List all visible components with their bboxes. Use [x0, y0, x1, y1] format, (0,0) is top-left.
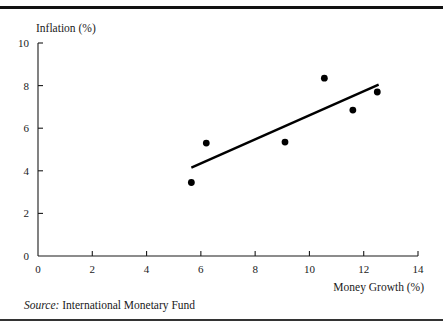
data-point [203, 140, 210, 147]
x-tick-label: 4 [144, 263, 150, 275]
y-tick-label: 4 [24, 165, 30, 177]
x-axis-title: Money Growth (%) [0, 281, 424, 293]
x-tick-label: 2 [90, 263, 96, 275]
x-tick-label: 8 [252, 263, 258, 275]
data-point [282, 139, 289, 146]
figure-container: Inflation (%) 024681002468101214 Money G… [0, 0, 443, 331]
y-tick-label: 2 [24, 207, 30, 219]
y-tick-label: 8 [24, 80, 30, 92]
x-tick-label: 6 [198, 263, 204, 275]
x-tick-label: 0 [35, 263, 41, 275]
x-tick-label: 12 [358, 263, 369, 275]
y-tick-label: 10 [18, 37, 30, 49]
source-value: International Monetary Fund [62, 299, 195, 311]
data-point [374, 89, 381, 96]
y-tick-label: 0 [24, 250, 30, 262]
data-point [349, 107, 356, 114]
data-point [321, 75, 328, 82]
source-label: Source: [24, 299, 59, 311]
x-tick-label: 10 [304, 263, 316, 275]
source-note: Source: International Monetary Fund [24, 299, 195, 311]
x-tick-label: 14 [413, 263, 425, 275]
data-point [188, 179, 195, 186]
y-tick-label: 6 [24, 122, 30, 134]
trend-line [191, 85, 378, 168]
